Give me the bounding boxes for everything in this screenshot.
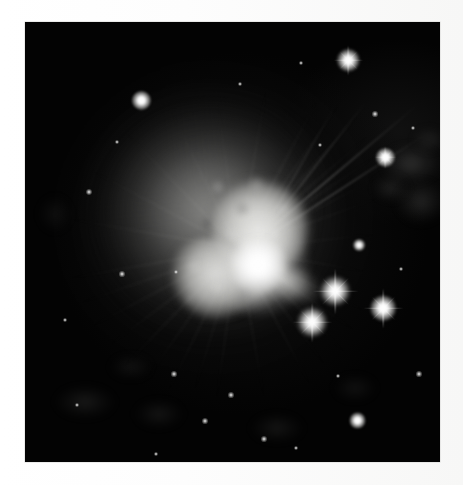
star-point [298,308,327,337]
bright-star-7 [359,245,360,246]
star-point [370,295,396,321]
faint-star [202,418,208,424]
image-canvas: Eta Carinae Homunculus Nebula Bipolar du… [0,0,463,485]
bright-star-4 [348,60,349,61]
bright-star-2 [312,322,313,323]
star-point [349,412,365,428]
faint-star [372,111,377,116]
faint-star [416,371,421,376]
bright-star-3 [383,308,384,309]
faint-star [228,392,233,397]
faint-star [261,436,267,442]
star-point [353,239,366,252]
faint-star [119,271,124,276]
bright-star-6 [141,100,142,101]
central-star-core [230,237,286,293]
faint-star [171,371,176,376]
astronomical-photograph [25,22,440,462]
star-point [321,277,350,306]
bright-star-5 [385,157,386,158]
bright-star-1 [335,291,336,292]
bright-star-8 [357,420,358,421]
